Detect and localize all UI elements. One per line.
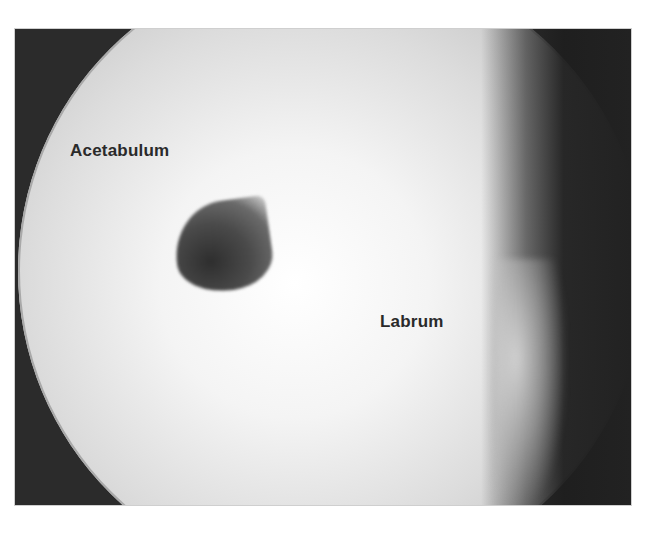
label-acetabulum: Acetabulum [70,141,169,161]
arthroscopic-image: Acetabulum Labrum [14,28,632,506]
labrum-tissue-edge [495,259,565,506]
label-labrum: Labrum [380,312,444,332]
